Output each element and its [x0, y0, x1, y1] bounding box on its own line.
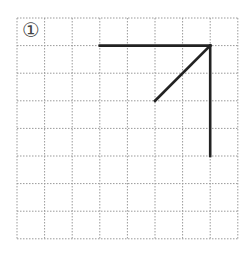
diagonal-line — [155, 46, 210, 101]
figure-number-label: ① — [20, 19, 42, 41]
